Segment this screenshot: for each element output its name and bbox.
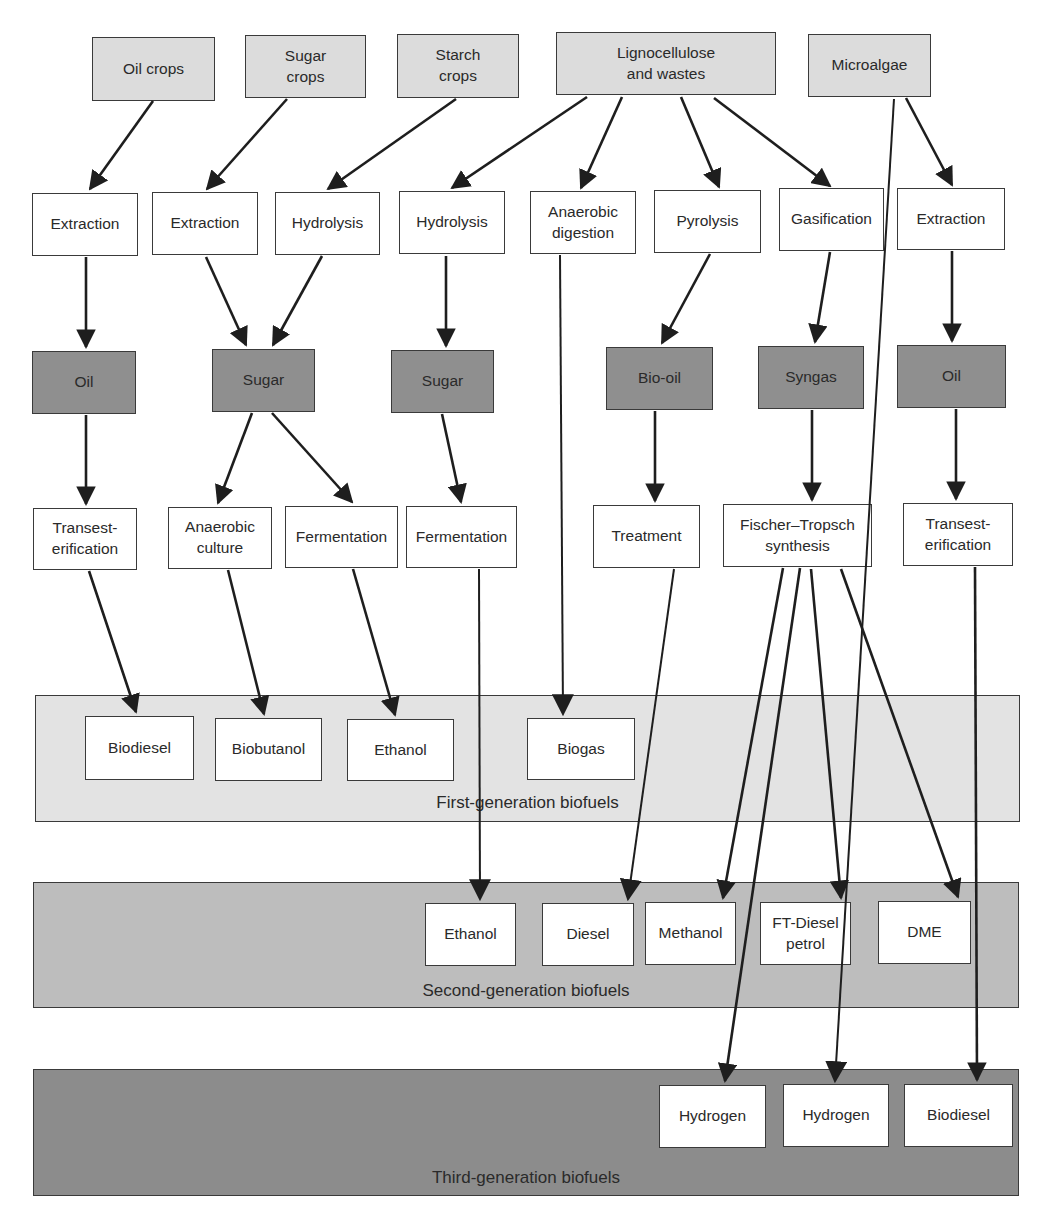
node-sugar-1: Sugar <box>212 349 315 412</box>
band-label: First-generation biofuels <box>36 793 1019 813</box>
arrow-lignocellulose-to-hydrolysis-2 <box>452 97 587 188</box>
node-sg-methanol: Methanol <box>645 902 736 965</box>
node-gasification: Gasification <box>779 188 884 251</box>
node-syngas: Syngas <box>758 346 864 409</box>
node-fg-ethanol: Ethanol <box>347 719 454 781</box>
node-treatment: Treatment <box>593 505 700 568</box>
node-fermentation-1: Fermentation <box>285 506 398 568</box>
node-lignocellulose: Lignocellulose and wastes <box>556 32 776 95</box>
node-oil-1: Oil <box>32 351 136 414</box>
arrow-gasification-to-syngas <box>815 252 830 342</box>
node-fg-biogas: Biogas <box>527 718 635 780</box>
node-extraction-3: Extraction <box>897 188 1005 250</box>
node-hydrolysis-2: Hydrolysis <box>399 191 505 254</box>
node-sugar-crops: Sugar crops <box>245 35 366 98</box>
arrow-sugar-crops-to-extraction-2 <box>207 99 287 189</box>
arrow-pyrolysis-to-bio-oil <box>662 254 710 343</box>
band-label: Second-generation biofuels <box>34 981 1018 1001</box>
node-tg-biodiesel: Biodiesel <box>904 1084 1013 1147</box>
node-sg-dme: DME <box>878 901 971 964</box>
node-hydrolysis-1: Hydrolysis <box>275 192 380 255</box>
node-sg-ethanol: Ethanol <box>425 903 516 966</box>
arrow-lignocellulose-to-gasification <box>714 98 830 186</box>
arrow-transesterification-1-to-fg-biodiesel <box>89 571 136 712</box>
node-transesterification-1: Transest- erification <box>33 508 137 570</box>
arrow-starch-crops-to-hydrolysis-1 <box>328 99 456 189</box>
arrow-connectors <box>0 0 1048 1220</box>
node-anaerobic-culture: Anaerobic culture <box>168 507 272 569</box>
band-second-generation: Second-generation biofuels <box>33 882 1019 1008</box>
arrow-hydrolysis-1-to-sugar-1 <box>273 256 322 345</box>
node-anaerobic-digestion: Anaerobic digestion <box>530 191 636 254</box>
arrow-extraction-2-to-sugar-1 <box>206 257 246 345</box>
arrow-sugar-2-to-fermentation-2 <box>442 414 461 502</box>
arrow-lignocellulose-to-anaerobic-digestion <box>581 97 622 188</box>
node-transesterification-2: Transest- erification <box>903 503 1013 566</box>
node-sg-ft-diesel: FT-Diesel petrol <box>760 902 851 965</box>
arrow-lignocellulose-to-pyrolysis <box>681 97 719 187</box>
arrow-microalgae-to-extraction-3 <box>906 98 952 185</box>
arrow-sugar-1-to-anaerobic-culture <box>218 413 252 503</box>
arrow-oil-crops-to-extraction-1 <box>90 101 153 189</box>
node-pyrolysis: Pyrolysis <box>654 190 761 253</box>
node-tg-hydrogen-1: Hydrogen <box>659 1085 766 1148</box>
band-label: Third-generation biofuels <box>34 1168 1018 1188</box>
node-starch-crops: Starch crops <box>397 34 519 98</box>
arrow-anaerobic-culture-to-fg-biobutanol <box>228 570 264 714</box>
arrow-fermentation-1-to-fg-ethanol <box>353 569 395 715</box>
arrow-anaerobic-digestion-to-fg-biogas <box>560 255 563 714</box>
node-sg-diesel: Diesel <box>542 903 634 966</box>
arrow-sugar-1-to-fermentation-1 <box>272 413 352 502</box>
node-tg-hydrogen-2: Hydrogen <box>783 1084 889 1147</box>
node-extraction-2: Extraction <box>152 192 258 255</box>
node-oil-2: Oil <box>897 345 1006 408</box>
node-microalgae: Microalgae <box>808 34 931 97</box>
node-bio-oil: Bio-oil <box>606 347 713 410</box>
node-fg-biodiesel: Biodiesel <box>85 716 194 780</box>
node-fg-biobutanol: Biobutanol <box>215 718 322 781</box>
node-fermentation-2: Fermentation <box>406 506 517 568</box>
node-fischer-tropsch: Fischer–Tropsch synthesis <box>723 504 872 567</box>
node-sugar-2: Sugar <box>391 350 494 413</box>
node-extraction-1: Extraction <box>32 193 138 256</box>
node-oil-crops: Oil crops <box>92 37 215 101</box>
